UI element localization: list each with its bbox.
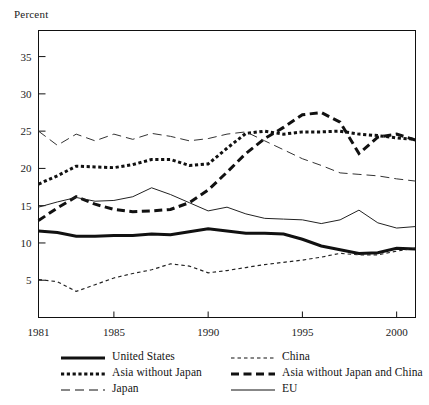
line-chart: 5101520253035 19811985199019952000 xyxy=(0,0,429,405)
series-line xyxy=(39,188,416,228)
legend-label: Asia without Japan xyxy=(112,366,202,378)
legend-item[interactable]: United States xyxy=(60,348,230,364)
legend-label: China xyxy=(282,350,310,362)
legend-item[interactable]: Japan xyxy=(60,380,230,396)
y-axis-ticks: 5101520253035 xyxy=(21,51,46,287)
legend-swatch-icon xyxy=(230,350,276,362)
legend-swatch-icon xyxy=(230,366,276,378)
legend-label: Japan xyxy=(112,382,139,394)
y-tick-label: 20 xyxy=(21,162,33,174)
legend-swatch-icon xyxy=(60,350,106,362)
x-tick-label: 1990 xyxy=(197,326,220,338)
figure-panel: Percent 5101520253035 198119851990199520… xyxy=(0,0,429,405)
x-tick-label: 2000 xyxy=(386,326,409,338)
x-tick-label: 1995 xyxy=(291,326,314,338)
legend-label: Asia without Japan and China xyxy=(282,366,423,378)
legend-swatch-icon xyxy=(60,382,106,394)
series-line xyxy=(39,229,416,254)
x-tick-label: 1981 xyxy=(28,326,50,338)
x-axis-ticks: 19811985199019952000 xyxy=(28,312,409,338)
legend-swatch-icon xyxy=(60,366,106,378)
y-tick-label: 25 xyxy=(21,125,33,137)
legend-item[interactable]: EU xyxy=(230,380,420,396)
y-tick-label: 10 xyxy=(21,237,33,249)
legend-row: Asia without JapanAsia without Japan and… xyxy=(60,364,420,380)
x-tick-label: 1985 xyxy=(103,326,126,338)
series-line xyxy=(39,131,416,181)
series-paths xyxy=(39,113,416,292)
legend-label: United States xyxy=(112,350,175,362)
legend-row: JapanEU xyxy=(60,380,420,396)
legend-item[interactable]: China xyxy=(230,348,420,364)
legend-item[interactable]: Asia without Japan and China xyxy=(230,364,420,380)
y-tick-label: 5 xyxy=(26,274,32,286)
chart-legend: United StatesChinaAsia without JapanAsia… xyxy=(60,348,420,400)
legend-item[interactable]: Asia without Japan xyxy=(60,364,230,380)
legend-row: United StatesChina xyxy=(60,348,420,364)
legend-label: EU xyxy=(282,382,298,394)
y-tick-label: 30 xyxy=(21,88,33,100)
series-line xyxy=(39,131,416,184)
legend-swatch-icon xyxy=(230,382,276,394)
y-tick-label: 35 xyxy=(21,51,33,63)
y-tick-label: 15 xyxy=(21,200,33,212)
